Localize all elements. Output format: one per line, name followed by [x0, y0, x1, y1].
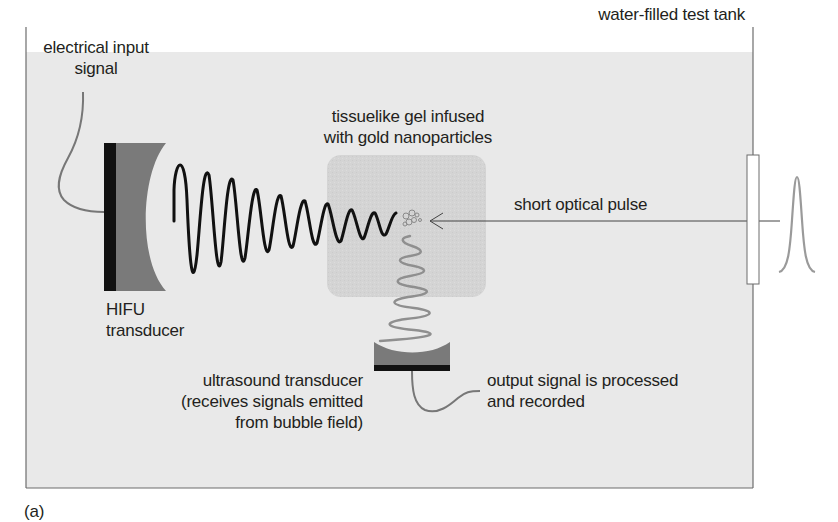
electrical-input-label: electrical input signal [32, 37, 160, 79]
hifu-label: HIFU transducer [106, 299, 184, 341]
tank-label: water-filled test tank [598, 4, 745, 25]
hifu-label-line2: transducer [106, 320, 184, 341]
electrical-input-label-line2: signal [32, 58, 160, 79]
output-label-line1: output signal is processed [487, 370, 678, 391]
gel-label-line2: with gold nanoparticles [300, 127, 516, 148]
output-signal-label: output signal is processed and recorded [487, 370, 678, 412]
output-label-line2: and recorded [487, 391, 678, 412]
hifu-label-line1: HIFU [106, 299, 184, 320]
ultrasound-label-line1: ultrasound transducer [181, 370, 363, 391]
gel-label-line1: tissuelike gel infused [300, 106, 516, 127]
ultrasound-label-line3: from bubble field) [181, 412, 363, 433]
optical-pulse-shape [779, 177, 815, 272]
optical-window [747, 155, 759, 284]
ultrasound-transducer-label: ultrasound transducer (receives signals … [181, 370, 363, 433]
panel-label: (a) [24, 501, 44, 522]
electrical-input-label-line1: electrical input [32, 37, 160, 58]
gel-label: tissuelike gel infused with gold nanopar… [300, 106, 516, 148]
optical-pulse-label: short optical pulse [514, 194, 647, 215]
ultrasound-label-line2: (receives signals emitted [181, 391, 363, 412]
